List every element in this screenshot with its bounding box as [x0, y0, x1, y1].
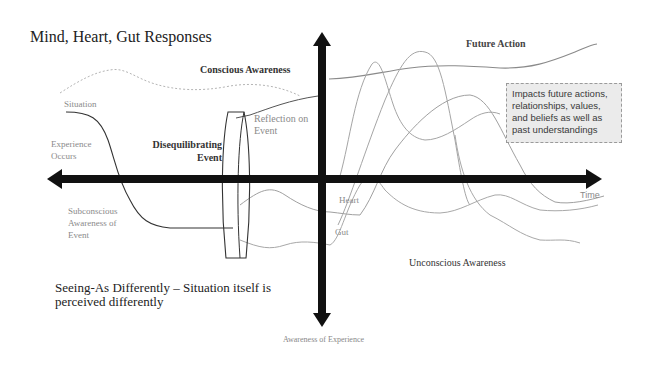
seeing-as-caption: Seeing-As Differently – Situation itself… [55, 281, 295, 309]
gut-label: Gut [335, 227, 349, 237]
diagram-canvas [0, 0, 655, 369]
gut-curve [240, 176, 598, 247]
unconscious-awareness-label: Unconscious Awareness [409, 257, 506, 268]
disequilibrating-event-label: Disequilibrating Event [136, 138, 222, 164]
conscious-awareness-label: Conscious Awareness [200, 64, 290, 75]
awareness-axis-label: Awareness of Experience [283, 335, 364, 344]
situation-label: Situation [64, 99, 97, 109]
heart-label: Heart [339, 195, 359, 205]
diagram-title: Mind, Heart, Gut Responses [30, 28, 212, 46]
future-action-label: Future Action [466, 38, 526, 49]
reflection-on-event-label: Reflection on Event [254, 113, 324, 137]
impact-callout-box: Impacts future actions, relationships, v… [506, 83, 622, 143]
mind-peak-1-curve [340, 62, 500, 176]
future-action-curve [329, 44, 597, 79]
time-axis-label: Time [580, 190, 600, 200]
disequilibrating-event-lens-icon [222, 112, 249, 258]
impact-callout-text: Impacts future actions, relationships, v… [512, 88, 608, 135]
gut-descent-curve [455, 135, 580, 243]
subconscious-awareness-label: Subconscious Awareness of Event [68, 205, 138, 241]
experience-occurs-label: Experience Occurs [51, 138, 111, 162]
